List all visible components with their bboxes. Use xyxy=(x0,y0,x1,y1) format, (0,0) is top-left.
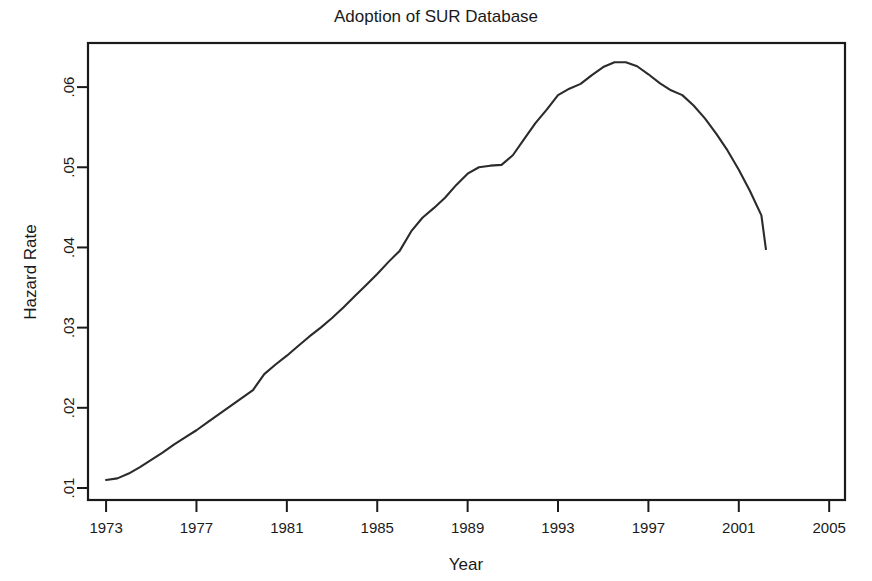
x-tick-label: 1981 xyxy=(270,519,303,536)
x-tick-label: 1997 xyxy=(632,519,665,536)
y-tick-label: .05 xyxy=(60,157,77,178)
x-tick-label: 2005 xyxy=(812,519,845,536)
y-axis-label: Hazard Rate xyxy=(21,224,40,319)
y-tick-label: .04 xyxy=(60,237,77,258)
y-tick-label: .01 xyxy=(60,478,77,499)
x-tick-label: 2001 xyxy=(722,519,755,536)
chart-background xyxy=(0,0,872,581)
chart-title: Adoption of SUR Database xyxy=(334,7,538,26)
x-tick-label: 1993 xyxy=(541,519,574,536)
x-tick-label: 1977 xyxy=(180,519,213,536)
x-tick-label: 1989 xyxy=(451,519,484,536)
x-axis-label: Year xyxy=(449,555,484,574)
y-tick-label: .03 xyxy=(60,317,77,338)
y-tick-label: .06 xyxy=(60,77,77,98)
x-tick-label: 1973 xyxy=(89,519,122,536)
chart-figure: Adoption of SUR Database .01.02.03.04.05… xyxy=(0,0,872,581)
x-tick-label: 1985 xyxy=(361,519,394,536)
y-tick-label: .02 xyxy=(60,397,77,418)
hazard-rate-line-chart: Adoption of SUR Database .01.02.03.04.05… xyxy=(0,0,872,581)
